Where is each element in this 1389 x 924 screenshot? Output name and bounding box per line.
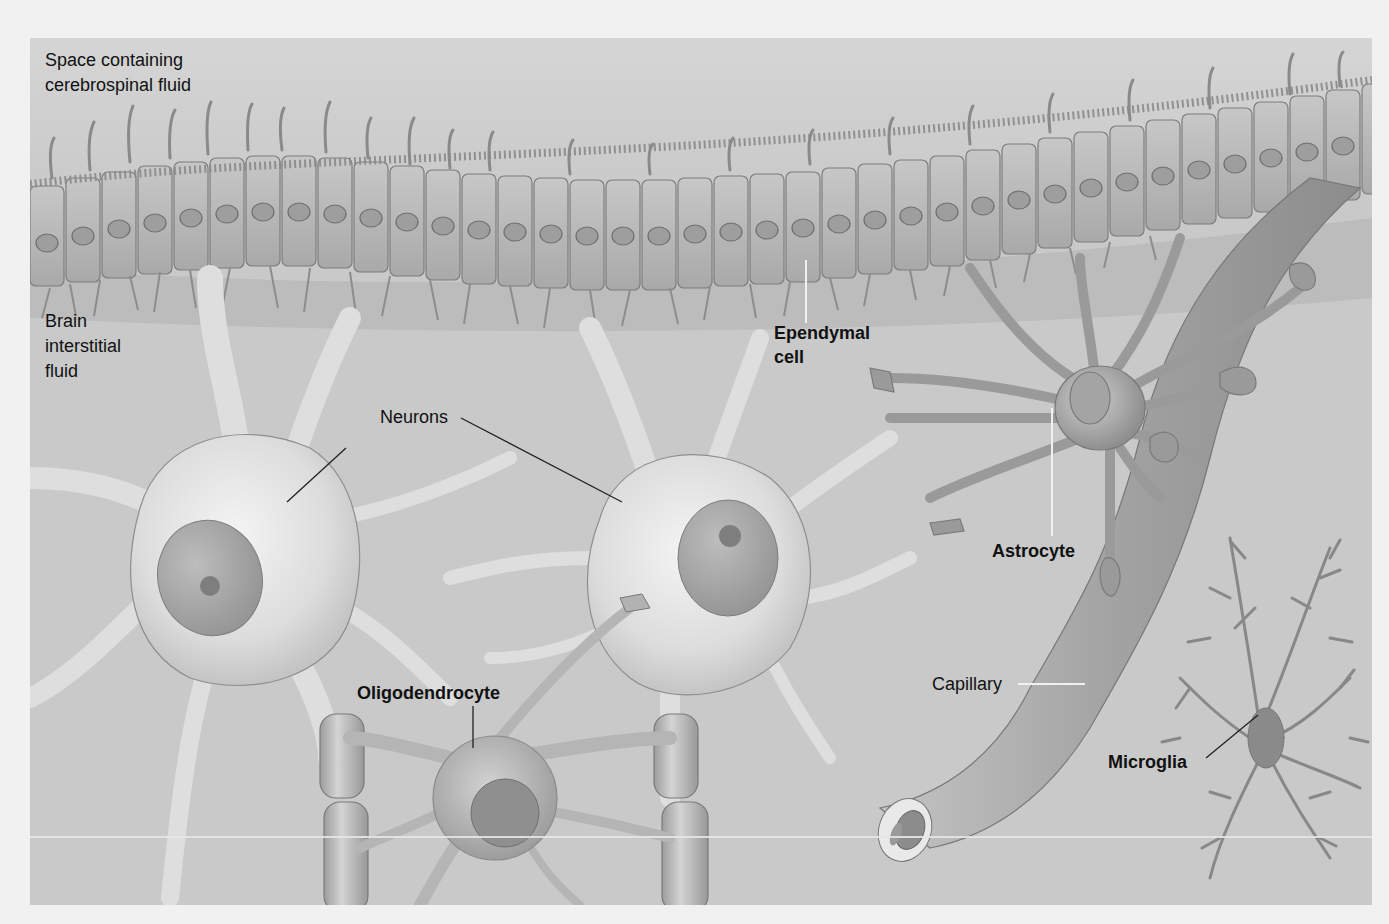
neuroglia-illustration: Space containing cerebrospinal fluid Bra… — [30, 38, 1372, 905]
astrocyte-label: Astrocyte — [992, 539, 1075, 563]
csf-space-label: Space containing cerebrospinal fluid — [45, 48, 191, 98]
microglia-label: Microglia — [1108, 750, 1187, 774]
interstitial-label-line2: interstitial — [45, 334, 121, 359]
interstitial-label-line3: fluid — [45, 359, 121, 384]
scan-artifact-line — [30, 836, 1372, 838]
oligodendrocyte-label: Oligodendrocyte — [357, 681, 500, 705]
interstitial-fluid-label: Brain interstitial fluid — [45, 309, 121, 384]
capillary-label: Capillary — [932, 672, 1002, 696]
csf-label-line1: Space containing — [45, 48, 191, 73]
ependymal-label-line2: cell — [774, 345, 870, 369]
csf-label-line2: cerebrospinal fluid — [45, 73, 191, 98]
interstitial-label-line1: Brain — [45, 309, 121, 334]
ependymal-label-line1: Ependymal — [774, 321, 870, 345]
ependymal-cell-label: Ependymal cell — [774, 321, 870, 369]
microglia — [1162, 538, 1368, 878]
neurons-label: Neurons — [380, 405, 448, 429]
